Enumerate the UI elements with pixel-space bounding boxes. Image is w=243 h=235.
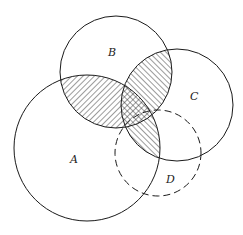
label-d: D <box>165 173 175 186</box>
label-b: B <box>107 46 116 59</box>
label-c: C <box>190 90 199 103</box>
venn-diagram: A B C D <box>0 0 243 235</box>
label-a: A <box>69 153 78 166</box>
